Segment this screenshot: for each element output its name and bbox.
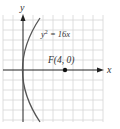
equation-label: y2 = 16x bbox=[40, 29, 70, 39]
y-axis-arrow-icon bbox=[21, 14, 26, 21]
x-axis bbox=[3, 68, 104, 73]
parabola-diagram: x y y2 = 16x F(4, 0) bbox=[0, 0, 120, 129]
focus-point bbox=[63, 68, 67, 72]
focus-label: F(4, 0) bbox=[47, 55, 74, 66]
y-axis-label: y bbox=[19, 2, 25, 13]
x-axis-label: x bbox=[106, 64, 112, 75]
